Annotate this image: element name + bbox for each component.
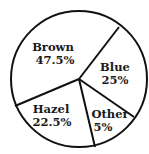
slice-blue-value: 25% <box>102 73 129 87</box>
pie-chart: Brown 47.5% Blue 25% Other 5% Hazel 22.5… <box>0 0 149 154</box>
slice-blue: Blue 25% <box>100 60 130 87</box>
slice-brown-value: 47.5% <box>36 53 75 67</box>
slice-hazel-label: Hazel <box>33 102 70 116</box>
slice-other-label: Other <box>91 107 129 121</box>
slice-other-value: 5% <box>94 120 113 134</box>
slice-brown: Brown 47.5% <box>32 40 74 67</box>
slice-blue-label: Blue <box>100 60 130 74</box>
slice-brown-label: Brown <box>32 40 74 54</box>
slice-hazel: Hazel 22.5% <box>33 102 72 129</box>
slice-hazel-value: 22.5% <box>33 115 72 129</box>
